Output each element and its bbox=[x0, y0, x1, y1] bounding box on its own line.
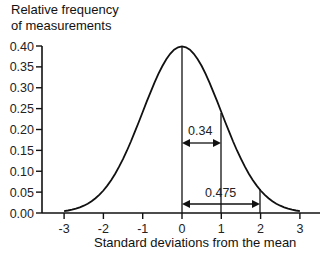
y-tick-label: 0.30 bbox=[10, 81, 34, 95]
x-ticks: -3-2-10123 bbox=[59, 213, 304, 236]
x-tick-label: 1 bbox=[218, 222, 225, 236]
normal-distribution-chart: 0.400.350.300.250.200.150.100.050.00 -3-… bbox=[0, 0, 329, 261]
x-tick-label: -3 bbox=[59, 222, 70, 236]
y-tick-label: 0.00 bbox=[10, 207, 34, 221]
annotation-0-34: 0.34 bbox=[188, 124, 212, 138]
x-tick-label: 3 bbox=[296, 222, 303, 236]
y-tick-label: 0.20 bbox=[10, 123, 34, 137]
y-ticks: 0.400.350.300.250.200.150.100.050.00 bbox=[10, 40, 42, 221]
x-tick-label: 0 bbox=[179, 222, 186, 236]
annotation-0-475: 0.475 bbox=[205, 186, 236, 200]
x-tick-label: -1 bbox=[137, 222, 148, 236]
arrow-0-34: 0.34 bbox=[182, 124, 221, 147]
y-tick-label: 0.35 bbox=[10, 60, 34, 74]
x-tick-label: 2 bbox=[257, 222, 264, 236]
y-tick-label: 0.15 bbox=[10, 144, 34, 158]
y-tick-label: 0.40 bbox=[10, 40, 34, 54]
y-tick-label: 0.25 bbox=[10, 102, 34, 116]
x-tick-label: -2 bbox=[98, 222, 109, 236]
y-tick-label: 0.10 bbox=[10, 165, 34, 179]
x-axis-label: Standard deviations from the mean bbox=[94, 235, 296, 250]
y-tick-label: 0.05 bbox=[10, 186, 34, 200]
